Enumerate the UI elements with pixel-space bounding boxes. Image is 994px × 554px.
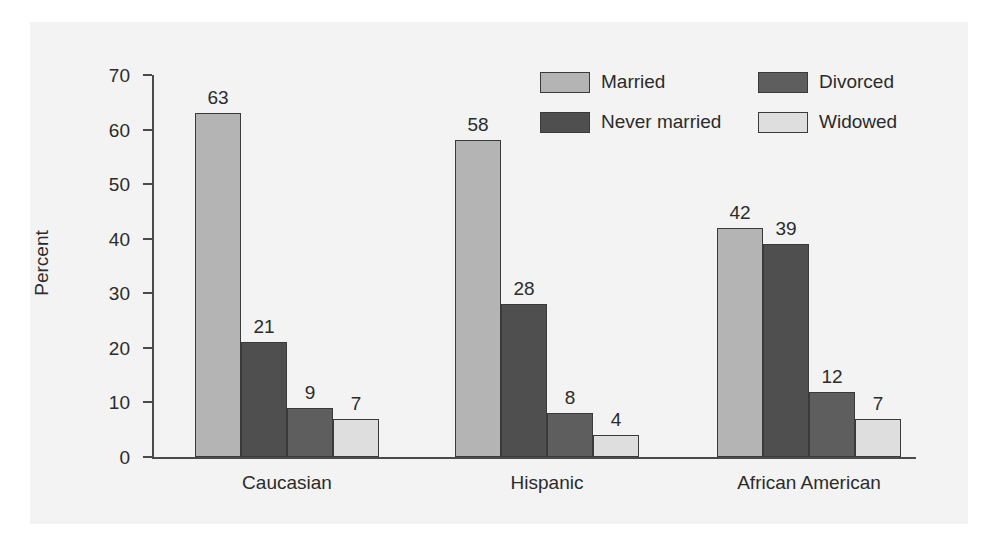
legend-swatch — [540, 72, 590, 93]
bar-value-label: 63 — [185, 88, 251, 107]
bar-value-label: 4 — [583, 410, 649, 429]
bar — [333, 419, 379, 457]
y-axis-tick-mark — [143, 456, 152, 458]
chart-legend: MarriedDivorcedNever marriedWidowed — [540, 62, 940, 142]
legend-entry: Divorced — [758, 71, 940, 93]
y-axis-tick-mark — [143, 74, 152, 76]
bar — [855, 419, 901, 457]
bar — [501, 304, 547, 457]
bar — [455, 140, 501, 457]
bar — [763, 244, 809, 457]
y-axis-line — [152, 75, 154, 459]
y-axis-tick-label: 0 — [88, 448, 130, 467]
legend-label: Divorced — [819, 71, 894, 93]
bar-value-label: 8 — [537, 388, 603, 407]
y-axis-tick-label: 10 — [88, 393, 130, 412]
y-axis-tick-label: 30 — [88, 284, 130, 303]
bar-value-label: 21 — [231, 317, 297, 336]
y-axis-tick-label: 50 — [88, 175, 130, 194]
plot-area: Percent 706050403020100 6321975828844239… — [0, 0, 994, 554]
bar — [287, 408, 333, 457]
legend-label: Married — [601, 71, 665, 93]
y-axis-tick-label: 60 — [88, 120, 130, 139]
y-axis-title: Percent — [31, 183, 53, 343]
y-axis-tick-mark — [143, 347, 152, 349]
legend-label: Widowed — [819, 111, 897, 133]
y-axis-tick-label: 40 — [88, 229, 130, 248]
bar-value-label: 7 — [845, 394, 911, 413]
legend-entry: Married — [540, 71, 758, 93]
x-axis-category-label: African American — [647, 472, 971, 494]
y-axis-tick-label: 70 — [88, 66, 130, 85]
bar-value-label: 7 — [323, 394, 389, 413]
bar-value-label: 39 — [753, 219, 819, 238]
y-axis-tick-label: 20 — [88, 338, 130, 357]
legend-entry: Widowed — [758, 111, 940, 133]
legend-entry: Never married — [540, 111, 758, 133]
y-axis-tick-mark — [143, 129, 152, 131]
bar — [717, 228, 763, 457]
y-axis-tick-mark — [143, 401, 152, 403]
legend-swatch — [758, 72, 808, 93]
legend-swatch — [758, 112, 808, 133]
bar-value-label: 58 — [445, 115, 511, 134]
bar — [593, 435, 639, 457]
legend-label: Never married — [601, 111, 721, 133]
bar-value-label: 12 — [799, 367, 865, 386]
legend-swatch — [540, 112, 590, 133]
y-axis-tick-mark — [143, 292, 152, 294]
y-axis-tick-mark — [143, 183, 152, 185]
bar-value-label: 28 — [491, 279, 557, 298]
bar-chart-figure: Percent 706050403020100 6321975828844239… — [0, 0, 994, 554]
y-axis-tick-mark — [143, 238, 152, 240]
bar — [195, 113, 241, 457]
x-axis-line — [152, 457, 916, 459]
